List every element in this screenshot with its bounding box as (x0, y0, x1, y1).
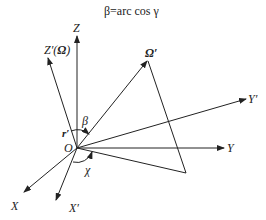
chi-label: χ (85, 164, 90, 176)
axes-svg (0, 0, 266, 220)
z-prime-label: Z′(Ω) (44, 44, 70, 56)
x-label: X (11, 200, 18, 212)
z-label: Z (73, 22, 80, 34)
triangle-right-edge (148, 61, 186, 173)
chi-arc (73, 152, 92, 163)
r-prime-label: r′ (62, 128, 69, 139)
y-prime-label: Y′ (248, 93, 257, 105)
x-prime-label: X′ (69, 202, 79, 214)
origin-label: O (64, 142, 73, 154)
rotation-diagram: β=arc cos γ Z Z′(Ω) Ω′ Y′ Y X X′ O r′ β … (0, 0, 266, 220)
beta-arc (71, 130, 89, 134)
y-label: Y (227, 142, 234, 154)
beta-label: β (82, 115, 88, 127)
triangle-bottom-edge (77, 148, 186, 173)
y-prime-axis (77, 99, 246, 148)
formula-title: β=arc cos γ (104, 5, 159, 17)
x-prime-axis (56, 148, 77, 200)
omega-prime-vector (77, 61, 147, 148)
omega-prime-label: Ω′ (145, 47, 157, 59)
